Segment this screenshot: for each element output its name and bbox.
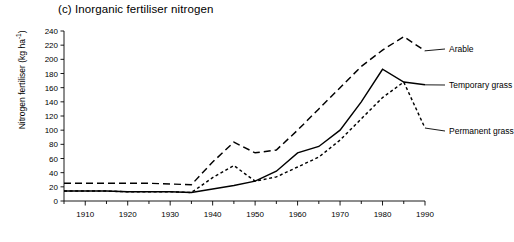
x-tick-label: 1970 (331, 210, 349, 219)
y-tick-label: 180 (45, 70, 59, 79)
y-tick-label: 0 (54, 197, 59, 206)
y-tick-label: 120 (45, 112, 59, 121)
x-tick-label: 1960 (289, 210, 307, 219)
leader-line-permanent-grass (425, 128, 445, 131)
x-tick-label: 1980 (374, 210, 392, 219)
leader-line-arable (425, 49, 445, 51)
chart-figure: (c) Inorganic fertiliser nitrogen Nitrog… (0, 0, 514, 242)
y-tick-label: 60 (49, 155, 58, 164)
x-tick-label: 1950 (246, 210, 264, 219)
plot-canvas: 0204060801001201401601802002202401910192… (0, 0, 514, 242)
y-tick-label: 80 (49, 140, 58, 149)
x-tick-label: 1990 (416, 210, 434, 219)
series-line-arable (64, 37, 425, 185)
series-label-temporary-grass: Temporary grass (449, 80, 512, 90)
y-tick-label: 200 (45, 55, 59, 64)
x-tick-label: 1930 (161, 210, 179, 219)
x-tick-label: 1940 (204, 210, 222, 219)
x-tick-label: 1910 (76, 210, 94, 219)
series-label-arable: Arable (449, 44, 474, 54)
y-tick-label: 40 (49, 169, 58, 178)
x-tick-label: 1920 (119, 210, 137, 219)
y-tick-label: 100 (45, 126, 59, 135)
y-tick-label: 20 (49, 183, 58, 192)
series-label-permanent-grass: Permanent grass (449, 126, 514, 136)
y-tick-label: 240 (45, 27, 59, 36)
y-tick-label: 140 (45, 98, 59, 107)
series-line-permanent-grass (64, 82, 425, 193)
y-tick-label: 160 (45, 84, 59, 93)
y-tick-label: 220 (45, 41, 59, 50)
